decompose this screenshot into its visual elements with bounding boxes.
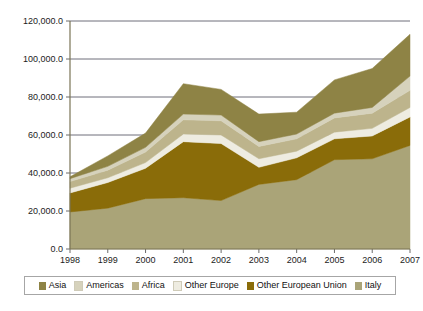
x-tick-label: 2007 [400, 255, 420, 265]
legend-swatch-icon [74, 281, 83, 291]
legend-label: Asia [49, 281, 67, 290]
x-tick-label: 1998 [60, 255, 80, 265]
x-tick-label: 2002 [211, 255, 231, 265]
y-tick-label: 120,000.0 [23, 16, 63, 26]
x-tick-label: 2006 [362, 255, 382, 265]
plot-area: 0.020,000.040,000.060,000.080,000.0100,0… [0, 0, 423, 268]
y-tick-label: 100,000.0 [23, 54, 63, 64]
legend-swatch-icon [132, 282, 139, 290]
area-series-group [70, 34, 410, 249]
legend-swatch-icon [173, 281, 182, 291]
legend-swatch-icon [39, 282, 46, 290]
y-axis-ticks: 0.020,000.040,000.060,000.080,000.0100,0… [23, 16, 70, 254]
x-tick-label: 2000 [136, 255, 156, 265]
legend-item-other-european-union[interactable]: Other European Union [247, 281, 347, 290]
stacked-area-chart: 0.020,000.040,000.060,000.080,000.0100,0… [0, 0, 423, 311]
x-tick-label: 2001 [173, 255, 193, 265]
legend-item-asia[interactable]: Asia [39, 281, 67, 290]
legend-label: Other European Union [257, 281, 347, 290]
legend-item-other-europe[interactable]: Other Europe [173, 281, 239, 291]
y-tick-label: 40,000.0 [28, 168, 63, 178]
legend-item-americas[interactable]: Americas [74, 281, 124, 291]
y-tick-label: 60,000.0 [28, 130, 63, 140]
x-tick-label: 2005 [324, 255, 344, 265]
legend-label: Italy [365, 281, 382, 290]
legend-label: Africa [142, 281, 165, 290]
y-tick-label: 0.0 [50, 244, 63, 254]
legend-item-italy[interactable]: Italy [355, 281, 382, 290]
legend-item-africa[interactable]: Africa [132, 281, 165, 290]
chart-legend: AsiaAmericasAfricaOther EuropeOther Euro… [24, 276, 396, 295]
chart-svg: 0.020,000.040,000.060,000.080,000.0100,0… [0, 0, 423, 268]
legend-label: Americas [86, 281, 124, 290]
y-tick-label: 20,000.0 [28, 206, 63, 216]
legend-label: Other Europe [185, 281, 239, 290]
x-axis-ticks: 1998199920002001200220032004200520062007 [60, 249, 420, 265]
x-tick-label: 2003 [249, 255, 269, 265]
x-tick-label: 2004 [287, 255, 307, 265]
legend-swatch-icon [247, 282, 254, 290]
y-tick-label: 80,000.0 [28, 92, 63, 102]
legend-swatch-icon [355, 282, 362, 290]
x-tick-label: 1999 [98, 255, 118, 265]
